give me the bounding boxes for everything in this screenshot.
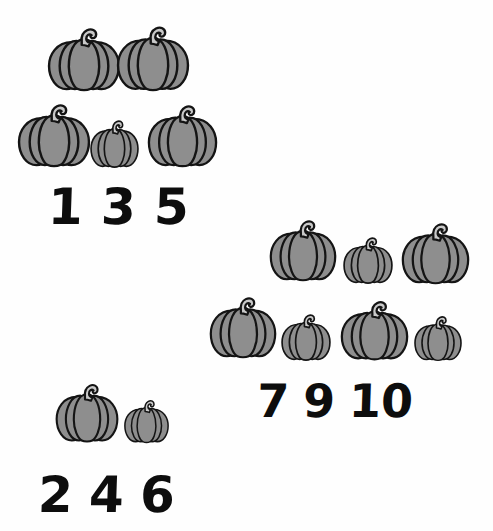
- number-9: 9: [302, 378, 336, 424]
- pumpkin-icon: [268, 216, 338, 284]
- number-6: 6: [139, 470, 176, 520]
- pumpkin-icon: [413, 313, 463, 363]
- pumpkin-icon: [54, 380, 120, 445]
- number-row-135: 135: [48, 182, 206, 232]
- pumpkin-group-bottom-left: [40, 375, 200, 455]
- number-4: 4: [88, 470, 125, 520]
- number-row-246: 246: [38, 470, 190, 520]
- number-row-7-9-10: 7910: [257, 378, 427, 424]
- pumpkin-icon: [339, 297, 410, 363]
- pumpkin-icon: [115, 22, 191, 94]
- pumpkin-group-top-left: [0, 0, 240, 180]
- pumpkin-icon: [46, 24, 122, 94]
- pumpkin-group-right: [200, 205, 493, 370]
- pumpkin-icon: [16, 100, 92, 170]
- number-3: 3: [100, 182, 137, 232]
- pumpkin-icon: [123, 397, 170, 445]
- pumpkin-icon: [146, 101, 219, 170]
- pumpkin-icon: [342, 234, 394, 286]
- number-1: 1: [47, 182, 84, 232]
- number-10: 10: [348, 378, 414, 424]
- pumpkin-icon: [208, 293, 278, 361]
- number-5: 5: [153, 182, 190, 232]
- pumpkin-icon: [400, 219, 471, 287]
- worksheet-canvas: 135 7910 246: [0, 0, 493, 531]
- pumpkin-icon: [280, 311, 332, 363]
- pumpkin-icon: [89, 117, 140, 170]
- number-7: 7: [256, 378, 290, 424]
- number-2: 2: [37, 470, 74, 520]
